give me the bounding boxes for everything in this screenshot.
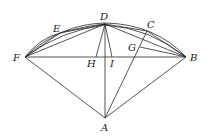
label-A: A [100,122,108,133]
segment-DH [96,24,105,57]
label-B: B [189,52,197,63]
label-E: E [52,23,61,34]
label-I: I [109,58,115,69]
diagram-canvas: A B C D E F G H I [0,0,210,140]
segment-BA [105,57,186,118]
label-F: F [12,52,21,63]
segment-CA [105,31,147,118]
label-D: D [99,11,108,22]
label-G: G [128,42,136,53]
segment-DI [105,24,112,57]
geometry-diagram: A B C D E F G H I [0,0,210,140]
segment-FD [25,24,105,57]
segment-DB [105,24,186,57]
label-C: C [147,19,155,30]
label-H: H [86,58,96,69]
